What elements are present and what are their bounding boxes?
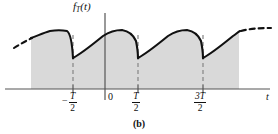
y-axis-label-argument: (t) xyxy=(80,0,90,12)
minus-sign: − xyxy=(62,96,68,106)
fraction-stack: 3T 2 xyxy=(194,92,206,113)
shaded-area-period-3 xyxy=(138,30,203,89)
fraction-numerator: 3T xyxy=(194,92,206,102)
periodic-waveform-plot xyxy=(0,0,278,134)
tick-label-T-over-2: T 2 xyxy=(132,92,140,113)
fraction-numerator: T xyxy=(132,92,139,102)
fraction-stack: T 2 xyxy=(69,92,77,113)
fraction-stack: T 2 xyxy=(132,92,140,113)
figure-caption: (b) xyxy=(0,118,278,129)
shaded-area-period-1 xyxy=(31,30,73,89)
y-axis-label: fT(t) xyxy=(73,1,91,14)
tick-label-minus-T-over-2: − T 2 xyxy=(62,92,77,113)
fraction-denominator: 2 xyxy=(134,104,139,114)
x-axis-label: t xyxy=(266,92,269,102)
fraction-denominator: 2 xyxy=(198,104,203,114)
tick-label-three-T-over-2: 3T 2 xyxy=(194,92,206,113)
origin-tick-label: 0 xyxy=(108,92,113,102)
waveform-dashed-left xyxy=(14,38,32,48)
figure-panel-b: fT(t) t 0 − T 2 T 2 3T 2 (b) xyxy=(0,0,278,134)
fraction-denominator: 2 xyxy=(70,104,75,114)
waveform-dashed-right xyxy=(241,28,271,31)
shaded-area-period-4 xyxy=(203,31,239,89)
fraction-numerator: T xyxy=(69,92,76,102)
